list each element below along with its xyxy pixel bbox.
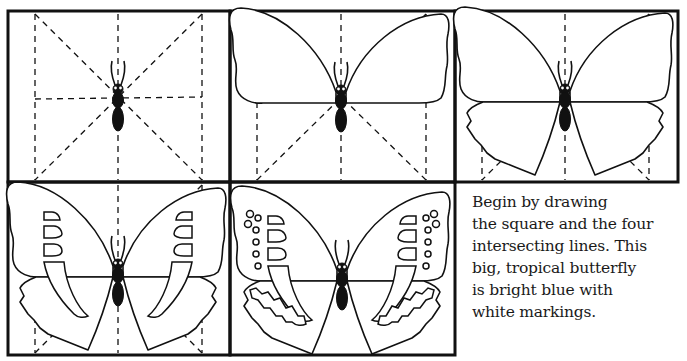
caption-line: intersecting lines. This <box>472 235 682 257</box>
instruction-caption: Begin by drawing the square and the four… <box>472 191 682 323</box>
caption-line: is bright blue with <box>472 279 682 301</box>
panel-step-1 <box>8 11 230 182</box>
panel-step-3 <box>454 7 678 182</box>
panel-step-5 <box>230 182 455 355</box>
butterfly-body <box>335 240 349 310</box>
caption-line: big, tropical butterfly <box>472 257 682 279</box>
butterfly-body <box>111 236 125 306</box>
panel-step-2 <box>230 8 455 182</box>
caption-line: white markings. <box>472 301 682 323</box>
caption-line: the square and the four <box>472 213 682 235</box>
panel-step-4 <box>7 182 230 355</box>
caption-line: Begin by drawing <box>472 191 682 213</box>
